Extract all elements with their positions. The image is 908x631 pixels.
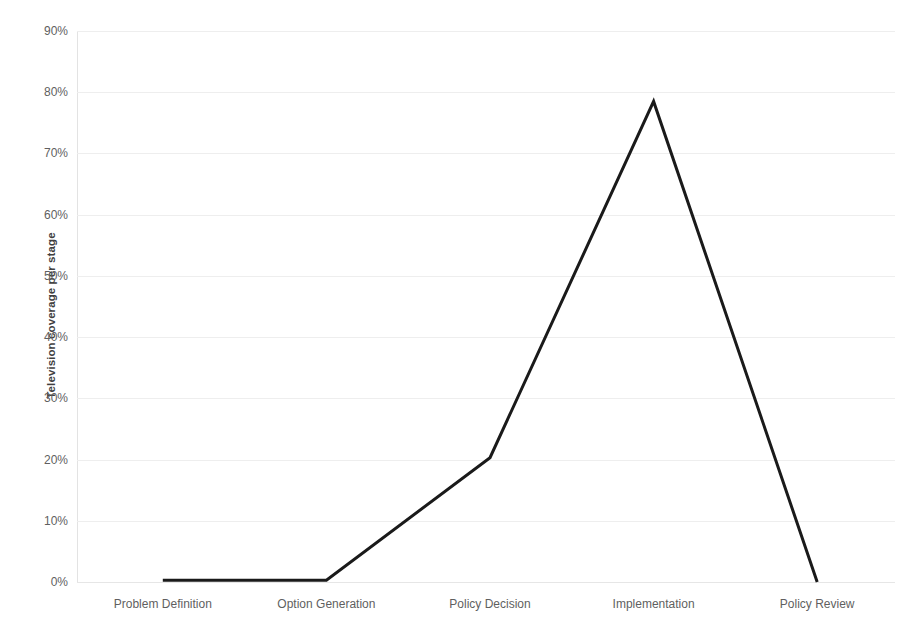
gridline <box>77 460 895 461</box>
y-axis-tick-label: 0% <box>0 575 68 589</box>
line-chart: Television coverage per stage 0%10%20%30… <box>0 0 908 631</box>
y-axis-tick-label: 40% <box>0 330 68 344</box>
gridline <box>77 276 895 277</box>
gridline <box>77 337 895 338</box>
x-axis-tick-label: Implementation <box>613 597 695 611</box>
gridline <box>77 153 895 154</box>
y-axis-tick-label: 20% <box>0 453 68 467</box>
y-axis-tick-label: 70% <box>0 146 68 160</box>
y-axis-tick-label: 10% <box>0 514 68 528</box>
y-axis-tick-label: 30% <box>0 391 68 405</box>
y-axis-tick-label: 50% <box>0 269 68 283</box>
x-axis-tick-label: Policy Review <box>780 597 855 611</box>
y-axis-tick-label: 60% <box>0 208 68 222</box>
gridline <box>77 582 895 583</box>
y-axis-tick-labels: 0%10%20%30%40%50%60%70%80%90% <box>0 0 68 631</box>
x-axis-tick-label: Policy Decision <box>449 597 530 611</box>
y-axis-tick-label: 80% <box>0 85 68 99</box>
gridline <box>77 92 895 93</box>
plot-area <box>77 31 895 582</box>
gridline <box>77 398 895 399</box>
gridline <box>77 31 895 32</box>
y-axis-tick-label: 90% <box>0 24 68 38</box>
x-axis-tick-label: Option Generation <box>277 597 375 611</box>
x-axis-tick-label: Problem Definition <box>114 597 212 611</box>
gridline <box>77 521 895 522</box>
gridline <box>77 215 895 216</box>
